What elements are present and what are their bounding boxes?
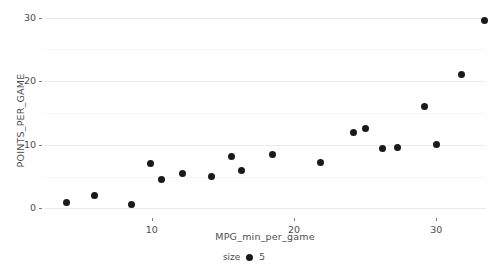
data-point xyxy=(238,167,245,174)
data-point xyxy=(481,17,488,24)
data-point xyxy=(228,153,235,160)
y-tick-mark xyxy=(39,81,42,82)
data-point xyxy=(208,173,215,180)
data-point xyxy=(63,199,70,206)
y-axis-ticks: 0102030 xyxy=(0,0,45,210)
gridline-horizontal-minor xyxy=(45,49,486,50)
gridline-horizontal xyxy=(45,81,486,82)
data-point xyxy=(269,151,276,158)
y-tick-mark xyxy=(39,18,42,19)
gridline-horizontal-minor xyxy=(45,177,486,178)
y-tick-label: 0 xyxy=(14,203,36,213)
legend-title: size xyxy=(223,252,240,262)
data-point xyxy=(350,129,357,136)
legend-marker-icon xyxy=(246,254,253,261)
y-tick-label: 20 xyxy=(14,76,36,86)
legend-entry-label: 5 xyxy=(259,252,265,262)
gridline-horizontal-minor xyxy=(45,113,486,114)
data-point xyxy=(379,145,386,152)
y-tick-label: 30 xyxy=(14,13,36,23)
y-tick-label: 10 xyxy=(14,140,36,150)
legend: size 5 xyxy=(0,248,488,266)
x-axis-label: MPG_min_per_game xyxy=(45,231,485,242)
data-point xyxy=(362,125,369,132)
x-tick-mark xyxy=(152,218,153,221)
data-point xyxy=(158,176,165,183)
data-point xyxy=(433,141,440,148)
scatter-plot-figure: POINTS_PER_GAME 0102030 102030 MPG_min_p… xyxy=(0,0,488,273)
y-tick-mark xyxy=(39,145,42,146)
gridline-horizontal xyxy=(45,208,486,209)
y-tick-mark xyxy=(39,208,42,209)
x-tick-mark xyxy=(436,218,437,221)
data-point xyxy=(91,192,98,199)
x-tick-mark xyxy=(294,218,295,221)
data-point xyxy=(147,160,154,167)
plot-panel xyxy=(45,8,486,218)
gridline-horizontal xyxy=(45,18,486,19)
data-point xyxy=(458,71,465,78)
data-point xyxy=(128,201,135,208)
data-point xyxy=(394,144,401,151)
data-point xyxy=(421,103,428,110)
gridline-horizontal xyxy=(45,145,486,146)
data-point xyxy=(317,159,324,166)
